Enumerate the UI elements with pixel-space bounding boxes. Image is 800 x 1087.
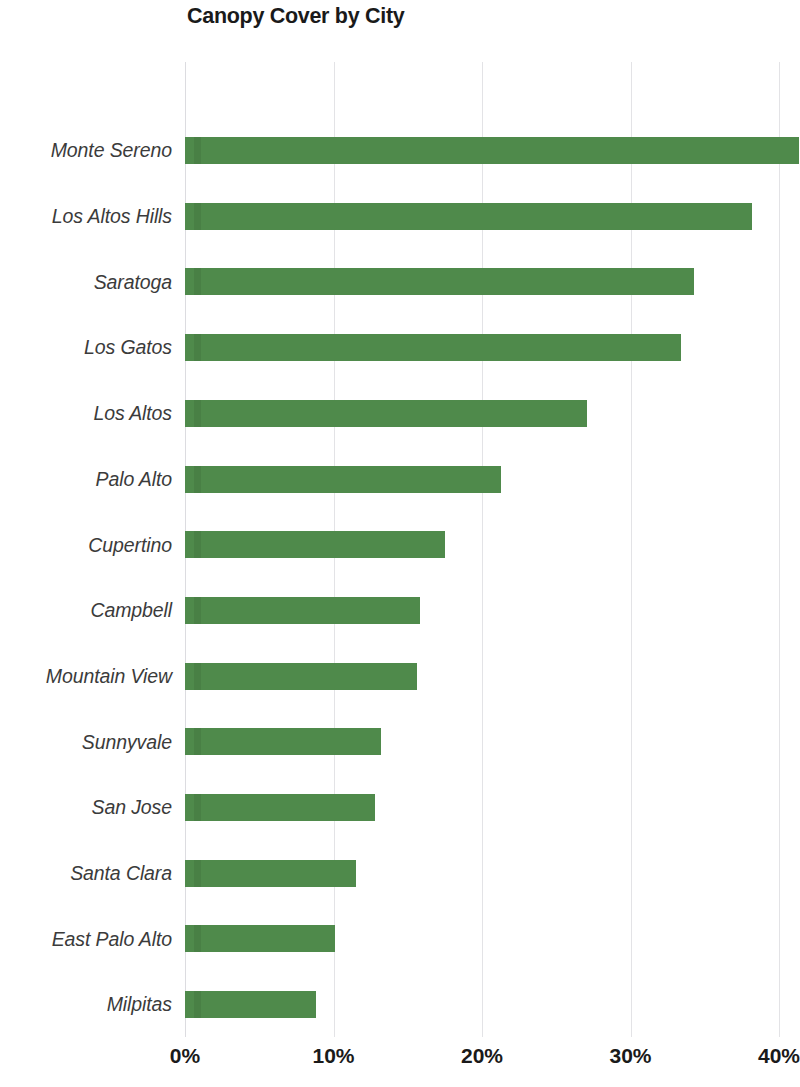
bar-row — [185, 578, 799, 644]
plot-area — [185, 62, 799, 1037]
x-tick-label: 30% — [609, 1044, 651, 1068]
bar-row — [185, 184, 799, 250]
category-label: East Palo Alto — [0, 906, 172, 972]
category-label: San Jose — [0, 775, 172, 841]
value-axis-tick-labels: 0%10%20%30%40% — [185, 1044, 799, 1084]
bar[interactable] — [185, 794, 375, 821]
category-label: Santa Clara — [0, 841, 172, 907]
x-tick-label: 20% — [461, 1044, 503, 1068]
bar[interactable] — [185, 925, 335, 952]
bar[interactable] — [185, 991, 316, 1018]
bar-row — [185, 381, 799, 447]
bar-row — [185, 118, 799, 184]
category-label: Los Gatos — [0, 315, 172, 381]
bar-row — [185, 644, 799, 710]
bar-row — [185, 906, 799, 972]
bar[interactable] — [185, 137, 799, 164]
category-label: Milpitas — [0, 972, 172, 1038]
category-axis-labels: Monte SerenoLos Altos HillsSaratogaLos G… — [0, 62, 172, 1037]
x-tick-label: 40% — [758, 1044, 800, 1068]
bar[interactable] — [185, 268, 694, 295]
bar[interactable] — [185, 531, 445, 558]
bar-row — [185, 249, 799, 315]
bar[interactable] — [185, 860, 356, 887]
category-label: Mountain View — [0, 644, 172, 710]
chart-title: Canopy Cover by City — [187, 4, 404, 29]
bar[interactable] — [185, 466, 501, 493]
bar[interactable] — [185, 400, 587, 427]
category-label: Saratoga — [0, 249, 172, 315]
bar-row — [185, 447, 799, 513]
category-label: Campbell — [0, 578, 172, 644]
category-label: Cupertino — [0, 512, 172, 578]
bar-row — [185, 841, 799, 907]
bar[interactable] — [185, 663, 417, 690]
bar-row — [185, 972, 799, 1038]
bar[interactable] — [185, 334, 681, 361]
x-tick-label: 0% — [170, 1044, 200, 1068]
category-label: Monte Sereno — [0, 118, 172, 184]
bar[interactable] — [185, 597, 420, 624]
bar[interactable] — [185, 728, 381, 755]
bar[interactable] — [185, 203, 752, 230]
bar-row — [185, 512, 799, 578]
category-label: Los Altos — [0, 381, 172, 447]
category-label: Los Altos Hills — [0, 184, 172, 250]
bar-row — [185, 775, 799, 841]
bar-row — [185, 709, 799, 775]
bar-row — [185, 315, 799, 381]
category-label: Sunnyvale — [0, 709, 172, 775]
category-label: Palo Alto — [0, 447, 172, 513]
x-tick-label: 10% — [312, 1044, 354, 1068]
bars-layer — [185, 62, 799, 1037]
